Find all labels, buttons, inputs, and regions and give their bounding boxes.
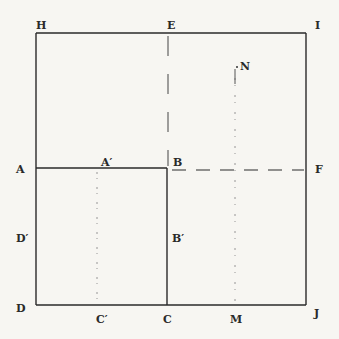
label-B: B [173,157,182,168]
label-D-prime: D′ [16,233,28,244]
diagram-canvas: H E I A A′ B F D′ B′ D C′ C M J N [0,0,339,339]
label-F: F [315,164,323,175]
label-H: H [36,20,46,31]
label-A: A [16,164,25,175]
diagram-svg [0,0,339,339]
point-N-dot [236,66,238,68]
label-M: M [230,314,242,325]
label-N: N [240,61,250,72]
label-C-prime: C′ [96,314,108,325]
label-B-prime: B′ [172,233,184,244]
label-D: D [16,303,26,314]
label-E: E [167,20,175,31]
label-I: I [315,20,320,31]
label-J: J [314,308,319,319]
label-C: C [163,314,172,325]
label-A-prime: A′ [101,157,112,168]
